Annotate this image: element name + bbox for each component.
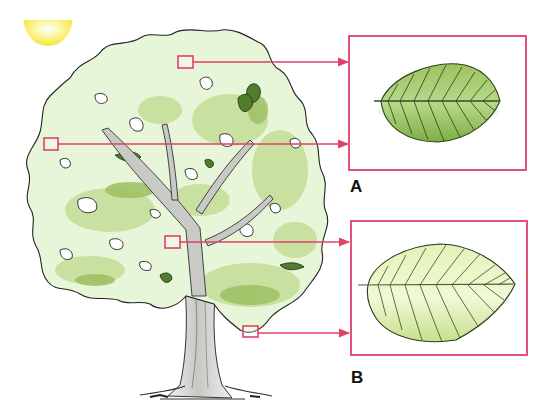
marker-lower-canopy [243, 326, 258, 337]
panel-b [351, 221, 527, 355]
sun-icon [24, 20, 72, 46]
marker-left-edge [44, 138, 58, 150]
panel-b-label: B [351, 368, 363, 388]
tree-leaf-diagram [0, 0, 542, 416]
panel-a-label: A [350, 177, 362, 197]
marker-top-canopy [178, 56, 193, 68]
marker-inner-canopy [165, 236, 180, 248]
tree-canopy [27, 30, 328, 333]
panel-a [349, 36, 526, 170]
